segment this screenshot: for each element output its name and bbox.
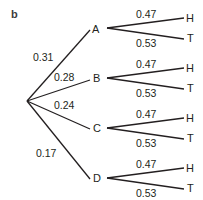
node-C-H: H bbox=[186, 113, 194, 124]
prob-A: 0.31 bbox=[33, 52, 53, 63]
node-D-T: T bbox=[187, 183, 194, 194]
prob-C-H: 0.47 bbox=[136, 109, 156, 120]
prob-B-H: 0.47 bbox=[136, 59, 156, 70]
panel-label: b bbox=[11, 9, 18, 20]
node-C-T: T bbox=[187, 133, 194, 144]
prob-B: 0.28 bbox=[54, 72, 74, 83]
prob-D-T: 0.53 bbox=[136, 188, 156, 199]
node-B: B bbox=[93, 73, 100, 84]
prob-A-H: 0.47 bbox=[136, 9, 156, 20]
node-B-H: H bbox=[186, 63, 194, 74]
tree-branches bbox=[0, 0, 203, 200]
prob-C-T: 0.53 bbox=[136, 138, 156, 149]
branch-root-D bbox=[27, 101, 90, 179]
node-A-H: H bbox=[186, 13, 194, 24]
node-C: C bbox=[93, 123, 101, 134]
node-D: D bbox=[93, 173, 101, 184]
prob-A-T: 0.53 bbox=[136, 38, 156, 49]
node-B-T: T bbox=[187, 83, 194, 94]
prob-D: 0.17 bbox=[36, 148, 56, 159]
tree-diagram: b 0.31 0.28 0.24 0.17 A B C D 0.47 0.53 … bbox=[0, 0, 203, 200]
node-A-T: T bbox=[187, 33, 194, 44]
node-A: A bbox=[92, 24, 99, 35]
prob-C: 0.24 bbox=[54, 100, 74, 111]
prob-D-H: 0.47 bbox=[136, 159, 156, 170]
prob-B-T: 0.53 bbox=[136, 88, 156, 99]
node-D-H: H bbox=[186, 163, 194, 174]
